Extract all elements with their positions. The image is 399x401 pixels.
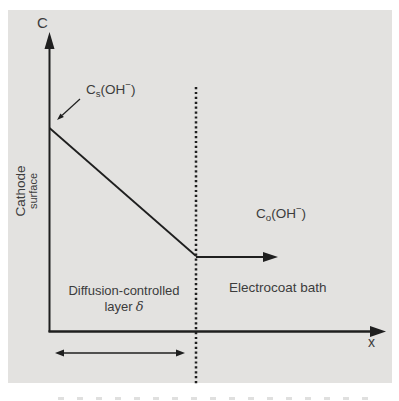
extent-arrow-right-head-icon xyxy=(176,350,185,357)
x-axis-label: x xyxy=(368,334,375,350)
concentration-gradient-line xyxy=(50,128,197,256)
bulk-concentration-label: Co(OH−) xyxy=(256,203,306,223)
co-close: ) xyxy=(302,206,307,221)
bulk-concentration-arrowhead-icon xyxy=(263,252,278,262)
co-open: (OH xyxy=(271,206,296,221)
diffusion-label-line1: Diffusion-controlled xyxy=(68,283,179,298)
surface-concentration-label: Cs(OH−) xyxy=(86,79,136,99)
y-axis-label: C xyxy=(37,14,48,31)
cs-symbol: C xyxy=(86,82,96,97)
diffusion-label-line2: layer xyxy=(104,299,132,314)
cs-close: ) xyxy=(131,82,136,97)
y-axis-arrowhead-icon xyxy=(45,32,55,49)
extent-arrow-left-head-icon xyxy=(55,350,64,357)
cathode-surface-label: Cathode surface xyxy=(14,152,44,230)
cropped-caption-fragment xyxy=(58,397,368,400)
cathode-label-line1: Cathode xyxy=(14,152,28,230)
diffusion-layer-label: Diffusion-controlled layerδ xyxy=(44,283,204,315)
cs-open: (OH xyxy=(101,82,126,97)
delta-symbol: δ xyxy=(136,299,144,314)
cathode-label-line2: surface xyxy=(28,152,39,230)
electrocoat-bath-label: Electrocoat bath xyxy=(229,280,327,295)
diagram-canvas xyxy=(0,0,399,401)
cs-annotation-arrow xyxy=(62,99,80,115)
co-symbol: C xyxy=(256,206,266,221)
